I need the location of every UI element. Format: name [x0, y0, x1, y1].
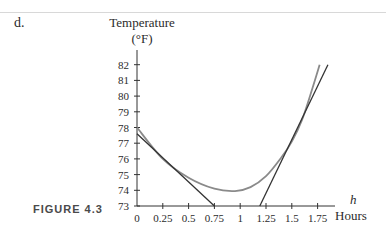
series-group	[137, 65, 328, 206]
y-tick-label: 78	[118, 122, 130, 134]
y-tick-label: 79	[118, 106, 130, 118]
x-tick-label: 0	[134, 212, 140, 224]
y-tick-label: 77	[118, 137, 130, 149]
y-tick-label: 81	[118, 74, 129, 86]
x-tick-label: 1.5	[285, 212, 299, 224]
y-tick-label: 80	[118, 90, 130, 102]
x-tick-label: 1	[237, 212, 243, 224]
y-tick-label: 73	[118, 200, 130, 212]
tangent-line	[137, 134, 214, 206]
x-tick-label: 0.5	[182, 212, 196, 224]
x-tick-label: 1.75	[308, 212, 328, 224]
y-tick-label: 74	[118, 184, 130, 196]
chart-plot: 7374757677787980818200.250.50.7511.251.5…	[0, 0, 386, 239]
axes: 7374757677787980818200.250.50.7511.251.5…	[118, 50, 335, 224]
y-tick-label: 82	[118, 59, 129, 71]
x-tick-label: 1.25	[256, 212, 276, 224]
temperature-curve	[137, 65, 320, 191]
y-tick-label: 76	[118, 153, 130, 165]
x-tick-label: 0.25	[153, 212, 173, 224]
tangent-line	[260, 65, 328, 206]
x-tick-label: 0.75	[205, 212, 225, 224]
y-tick-label: 75	[118, 169, 130, 181]
